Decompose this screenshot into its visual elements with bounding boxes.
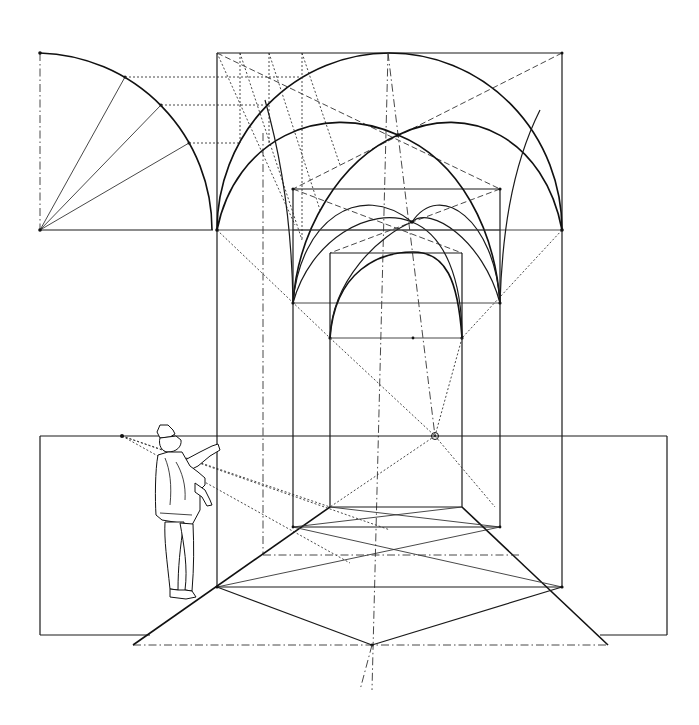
perspective-vault-diagram: [0, 0, 699, 725]
profile-quadrant: [38, 51, 300, 232]
construction-verticals: [217, 53, 435, 690]
horizon-and-boxes: [40, 338, 667, 635]
observer-figure: [155, 425, 220, 599]
axis-extension: [360, 645, 372, 690]
floor-grid: [133, 507, 608, 647]
middle-frame: [217, 100, 562, 527]
inner-frame: [293, 218, 500, 507]
